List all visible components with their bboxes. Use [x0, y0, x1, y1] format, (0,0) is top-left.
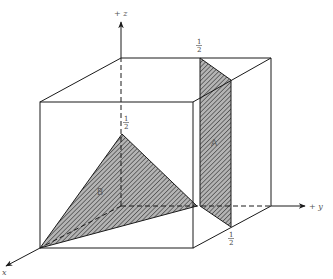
plane-b	[40, 134, 197, 248]
x-axis	[6, 248, 40, 266]
svg-text:2: 2	[197, 46, 201, 54]
z-half-label: 1 2	[123, 115, 129, 131]
z-axis-label: + z	[114, 9, 128, 18]
cube-diagram: + z + y x 1 2 1 2 1 2 A B	[0, 0, 333, 279]
svg-text:1: 1	[229, 231, 233, 239]
edge-top-left	[40, 58, 121, 102]
svg-text:2: 2	[229, 239, 233, 247]
plane-a-label: A	[211, 138, 218, 148]
plane-b-label: B	[97, 187, 103, 197]
y-half-bottom-label: 1 2	[228, 231, 234, 247]
svg-text:1: 1	[124, 115, 128, 123]
x-axis-label: x	[2, 268, 7, 277]
svg-text:2: 2	[124, 123, 128, 131]
y-half-top-label: 1 2	[196, 38, 202, 54]
axes	[6, 22, 305, 266]
y-axis-label: + y	[309, 202, 323, 211]
svg-text:1: 1	[197, 38, 201, 46]
